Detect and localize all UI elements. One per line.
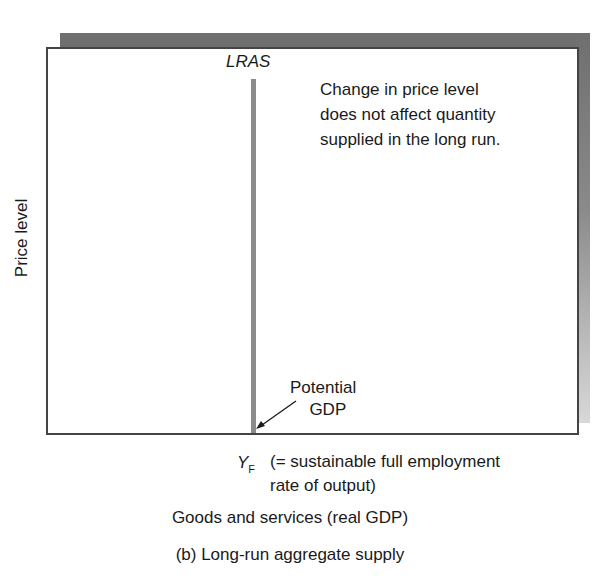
x-axis-label-row: Goods and services (real GDP) bbox=[0, 508, 612, 528]
potential-gdp-arrow-icon bbox=[0, 0, 612, 587]
yf-symbol: Y bbox=[237, 453, 248, 472]
yf-tick-label: YF bbox=[237, 453, 255, 475]
figure-caption: (b) Long-run aggregate supply bbox=[176, 545, 405, 564]
yf-description: (= sustainable full employment rate of o… bbox=[270, 450, 500, 498]
yf-subscript: F bbox=[248, 463, 255, 475]
x-axis-label: Goods and services (real GDP) bbox=[172, 508, 408, 527]
figure-caption-row: (b) Long-run aggregate supply bbox=[0, 545, 612, 565]
